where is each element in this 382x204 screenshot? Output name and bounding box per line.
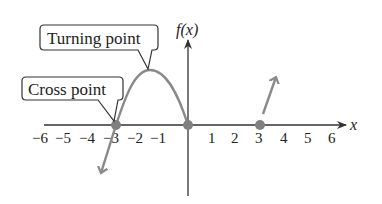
svg-text:6: 6 (328, 130, 336, 146)
svg-text:1: 1 (208, 130, 216, 146)
svg-text:−4: −4 (79, 130, 95, 146)
root-point-neg3 (111, 120, 121, 130)
polynomial-diagram: f(x) x −6 −5 −4 −3 −2 −1 1 2 3 4 5 6 Tur… (0, 0, 382, 204)
curve-right-arrow (263, 77, 276, 114)
svg-text:−1: −1 (150, 130, 166, 146)
turning-point-callout: Turning point (40, 25, 158, 69)
curve-left-branch (116, 70, 188, 125)
y-axis-label: f(x) (176, 21, 198, 39)
turning-point-label: Turning point (47, 29, 141, 48)
root-point-0 (183, 120, 193, 130)
svg-text:−5: −5 (55, 130, 71, 146)
svg-text:2: 2 (231, 130, 239, 146)
root-point-3 (255, 120, 265, 130)
cross-point-callout: Cross point (22, 77, 123, 121)
x-tick-labels: −6 −5 −4 −3 −2 −1 1 2 3 4 5 6 (32, 130, 336, 146)
svg-text:−6: −6 (32, 130, 48, 146)
svg-text:3: 3 (255, 130, 263, 146)
svg-text:4: 4 (280, 130, 288, 146)
svg-text:−2: −2 (127, 130, 143, 146)
cross-point-label: Cross point (28, 80, 106, 99)
svg-text:5: 5 (304, 130, 312, 146)
x-axis-label: x (349, 116, 357, 133)
